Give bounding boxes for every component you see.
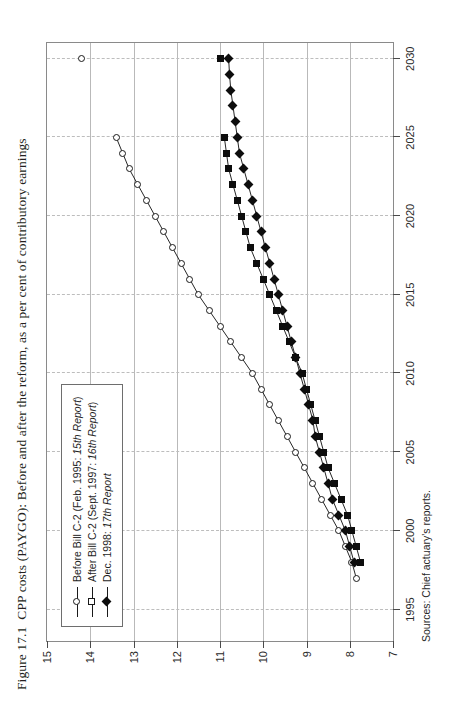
- data-point-marker: [238, 213, 245, 220]
- y-axis-tick: [90, 641, 91, 648]
- x-axis-label: 2015: [404, 283, 416, 307]
- data-point-marker: [266, 291, 273, 298]
- legend-item: Dec. 1998: 17th Report: [99, 396, 114, 617]
- data-point-marker: [242, 228, 249, 235]
- legend-item: Before Bill C-2 (Feb. 1995: 15th Report): [69, 396, 84, 617]
- y-axis-label: 11: [214, 651, 226, 662]
- y-axis-label: 12: [171, 651, 183, 663]
- data-point-marker: [338, 496, 345, 503]
- rotated-figure-stage: Figure 17.1CPP costs (PAYGO): Before and…: [0, 0, 450, 712]
- data-point-marker: [234, 197, 241, 204]
- y-axis-tick: [134, 641, 135, 648]
- data-point-marker: [217, 323, 224, 330]
- data-point-marker: [152, 213, 159, 220]
- figure-caption-text: CPP costs (PAYGO): Before and after the …: [14, 138, 29, 619]
- x-axis-tick: [393, 451, 400, 452]
- x-axis-tick: [393, 609, 400, 610]
- x-axis-label: 2020: [404, 204, 416, 228]
- figure-caption: Figure 17.1CPP costs (PAYGO): Before and…: [14, 30, 30, 690]
- y-axis-label: 9: [301, 651, 313, 657]
- data-point-marker: [284, 433, 291, 440]
- data-point-marker: [119, 150, 126, 157]
- data-point-marker: [178, 260, 185, 267]
- x-axis-tick: [393, 294, 400, 295]
- x-axis-label: 2025: [404, 125, 416, 149]
- legend-label: Dec. 1998: 17th Report: [101, 473, 113, 582]
- y-axis-tick: [177, 641, 178, 648]
- x-axis-tick: [393, 215, 400, 216]
- legend-label: After Bill C-2 (Sept. 1997: 16th Report): [86, 402, 98, 582]
- x-axis-tick: [393, 58, 400, 59]
- x-axis-label: 2010: [404, 361, 416, 385]
- x-axis-tick: [393, 136, 400, 137]
- data-point-marker: [353, 575, 360, 582]
- y-axis-label: 10: [257, 651, 269, 663]
- y-axis-tick: [220, 641, 221, 648]
- y-axis-label: 8: [344, 651, 356, 657]
- source-note: Sources: Chief actuary's reports.: [420, 490, 432, 642]
- y-axis-tick: [263, 641, 264, 648]
- figure-number: Figure 17.1: [14, 627, 29, 690]
- open-circle-marker: [70, 587, 84, 617]
- book-page: Figure 17.1CPP costs (PAYGO): Before and…: [0, 0, 450, 712]
- data-point-marker: [249, 370, 256, 377]
- data-point-marker: [253, 260, 260, 267]
- y-axis-tick: [350, 641, 351, 648]
- data-point-marker: [143, 197, 150, 204]
- x-axis-label: 2000: [404, 519, 416, 543]
- x-axis-tick: [393, 530, 400, 531]
- filled-diamond-marker: [100, 587, 114, 617]
- data-point-marker: [344, 512, 351, 519]
- data-point-marker: [113, 134, 120, 141]
- x-axis-label: 2005: [404, 440, 416, 464]
- legend-item: After Bill C-2 (Sept. 1997: 16th Report): [84, 396, 99, 617]
- data-point-marker: [247, 244, 254, 251]
- y-axis-label: 13: [128, 651, 140, 663]
- data-point-marker: [225, 165, 232, 172]
- x-axis-label: 2030: [404, 47, 416, 71]
- data-point-marker: [169, 244, 176, 251]
- data-point-marker: [275, 417, 282, 424]
- data-point-marker: [258, 386, 265, 393]
- data-point-marker: [217, 55, 224, 62]
- data-point-marker: [260, 276, 267, 283]
- y-axis-label: 15: [41, 651, 53, 663]
- y-axis-label: 7: [387, 651, 399, 657]
- x-axis-tick: [393, 372, 400, 373]
- x-axis-label: 1995: [404, 597, 416, 621]
- y-axis-label: 14: [84, 651, 96, 663]
- data-point-marker: [292, 449, 299, 456]
- data-point-marker: [229, 181, 236, 188]
- legend-label: Before Bill C-2 (Feb. 1995: 15th Report): [71, 396, 83, 582]
- data-point-marker: [318, 496, 325, 503]
- data-point-marker: [186, 276, 193, 283]
- chart-plot-area: Before Bill C-2 (Feb. 1995: 15th Report)…: [46, 42, 394, 642]
- y-axis-tick: [307, 641, 308, 648]
- data-point-marker: [223, 150, 230, 157]
- data-point-marker: [206, 307, 213, 314]
- y-axis-tick: [393, 641, 394, 648]
- y-axis-tick: [47, 641, 48, 648]
- open-square-marker: [85, 587, 99, 617]
- data-point-marker: [221, 134, 228, 141]
- chart-legend: Before Bill C-2 (Feb. 1995: 15th Report)…: [61, 384, 123, 627]
